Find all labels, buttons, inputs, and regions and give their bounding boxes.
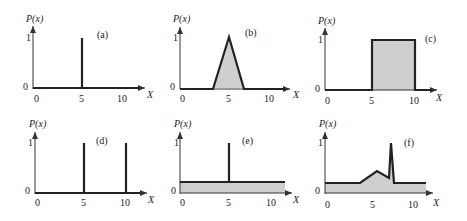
- y-tick-0: 0: [315, 185, 320, 196]
- panel-a: P(x) 1 0 0 5 10 X (a): [23, 13, 154, 104]
- shaded-area: [325, 143, 426, 193]
- x-tick-0: 0: [34, 93, 39, 104]
- y-axis-label: P(x): [173, 118, 192, 130]
- x-axis-label: X: [435, 92, 443, 103]
- panel-label: (b): [245, 27, 257, 39]
- y-tick-1: 1: [26, 32, 31, 43]
- x-tick-10: 10: [264, 93, 274, 104]
- y-axis-label: P(x): [317, 15, 336, 27]
- x-tick-0: 0: [35, 197, 40, 208]
- panel-label: (a): [97, 29, 108, 41]
- panel-label: (c): [425, 33, 436, 45]
- panel-f: P(x) 1 0 0 5 10 X (f): [315, 118, 440, 210]
- y-axis-label: P(x): [318, 118, 337, 130]
- x-tick-5: 5: [226, 93, 231, 104]
- panel-d: P(x) 1 0 0 5 10 X (d): [25, 118, 155, 208]
- y-tick-0: 0: [170, 81, 175, 92]
- x-tick-5: 5: [81, 197, 86, 208]
- panel-c: P(x) 1 0 0 5 10 X (c): [315, 15, 443, 106]
- y-axis-label: P(x): [25, 13, 44, 25]
- x-axis-label: X: [146, 89, 154, 100]
- x-tick-5: 5: [226, 197, 231, 208]
- y-tick-1: 1: [318, 34, 323, 45]
- x-tick-0: 0: [180, 197, 185, 208]
- distribution-curve: [35, 143, 140, 193]
- y-tick-1: 1: [174, 137, 179, 148]
- y-tick-0: 0: [25, 185, 30, 196]
- x-tick-0: 0: [325, 199, 330, 210]
- y-tick-0: 0: [171, 185, 176, 196]
- x-tick-0: 0: [325, 95, 330, 106]
- y-tick-1: 1: [28, 137, 33, 148]
- y-tick-0: 0: [315, 83, 320, 94]
- distribution-curve: [180, 143, 285, 182]
- x-tick-10: 10: [117, 93, 127, 104]
- y-tick-1: 1: [173, 32, 178, 43]
- shaded-area: [213, 37, 244, 88]
- panel-e: P(x) 1 0 0 5 10 X (e): [171, 118, 300, 208]
- distribution-curve: [33, 38, 140, 88]
- x-axis-label: X: [292, 194, 300, 205]
- y-axis-label: P(x): [28, 118, 47, 130]
- x-tick-0: 0: [180, 93, 185, 104]
- x-tick-10: 10: [409, 95, 419, 106]
- x-axis-label: X: [432, 197, 440, 208]
- x-tick-5: 5: [79, 93, 84, 104]
- panel-label: (f): [404, 137, 414, 149]
- figure-canvas: P(x) 1 0 0 5 10 X (a) P(x) 1 0 0 5 10 X …: [0, 0, 467, 221]
- x-tick-5: 5: [370, 199, 375, 210]
- x-axis-label: X: [147, 194, 155, 205]
- x-tick-10: 10: [120, 197, 130, 208]
- x-tick-5: 5: [369, 95, 374, 106]
- x-tick-10: 10: [408, 199, 418, 210]
- y-tick-1: 1: [318, 137, 323, 148]
- x-axis-label: X: [292, 89, 300, 100]
- y-axis-label: P(x): [172, 13, 191, 25]
- panel-label: (e): [242, 135, 253, 147]
- y-tick-0: 0: [23, 81, 28, 92]
- panel-b: P(x) 1 0 0 5 10 X (b): [170, 13, 300, 104]
- panel-label: (d): [96, 135, 108, 147]
- shaded-area: [372, 40, 415, 90]
- x-tick-10: 10: [266, 197, 276, 208]
- shaded-area: [180, 182, 285, 193]
